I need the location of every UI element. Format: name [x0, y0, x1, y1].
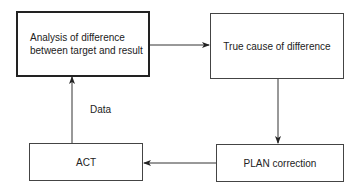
edge-label-data: Data [90, 104, 111, 115]
node-plan: PLAN correction [216, 144, 344, 182]
node-act: ACT [29, 143, 143, 181]
node-act-label: ACT [30, 156, 142, 169]
node-analysis-line2: between target and result [30, 44, 148, 57]
node-true-cause-label: True cause of difference [211, 40, 343, 53]
node-analysis: Analysis of difference between target an… [16, 11, 150, 77]
node-analysis-line1: Analysis of difference [30, 31, 148, 44]
node-plan-label: PLAN correction [217, 157, 343, 170]
node-true-cause: True cause of difference [210, 13, 344, 79]
